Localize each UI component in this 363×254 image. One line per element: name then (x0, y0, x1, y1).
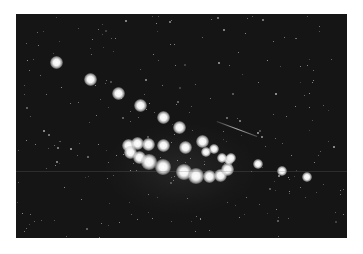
faint-star (140, 69, 141, 70)
faint-star (30, 116, 31, 117)
faint-star (189, 112, 190, 113)
faint-star (184, 64, 186, 66)
faint-star (289, 191, 290, 192)
faint-star (86, 228, 88, 230)
faint-star (170, 44, 171, 45)
faint-star (319, 31, 320, 32)
faint-star (288, 177, 289, 178)
faint-star (148, 212, 149, 213)
faint-star (171, 221, 172, 222)
faint-star (90, 48, 91, 49)
faint-star (174, 176, 175, 177)
faint-star (26, 228, 27, 229)
bright-star (134, 99, 147, 112)
faint-star (102, 24, 103, 25)
faint-star (275, 190, 276, 191)
faint-star (89, 122, 90, 123)
faint-star (192, 130, 193, 131)
faint-star (54, 220, 55, 221)
faint-star (154, 112, 155, 113)
faint-star (79, 143, 80, 144)
faint-star (54, 145, 55, 146)
bright-star (142, 138, 155, 151)
faint-star (257, 132, 259, 134)
faint-star (267, 60, 268, 61)
faint-star (35, 144, 36, 145)
faint-star (239, 217, 240, 218)
faint-star (335, 212, 336, 213)
faint-star (162, 85, 163, 86)
faint-star (113, 175, 114, 176)
faint-star (56, 161, 58, 163)
faint-star (294, 176, 295, 177)
faint-star (174, 44, 175, 45)
faint-star (130, 121, 131, 122)
faint-star (185, 162, 186, 163)
faint-star (177, 101, 179, 103)
faint-star (313, 70, 314, 71)
scan-artifact-line (16, 171, 347, 172)
faint-star (48, 148, 49, 149)
faint-star (157, 31, 158, 32)
faint-star (244, 214, 245, 215)
faint-star (318, 155, 319, 156)
faint-star (274, 181, 275, 182)
faint-star (217, 17, 219, 19)
faint-star (108, 107, 109, 108)
faint-star (202, 37, 203, 38)
faint-star (187, 198, 188, 199)
faint-star (176, 104, 177, 105)
faint-star (100, 99, 101, 100)
faint-star (59, 163, 60, 164)
faint-star (59, 41, 60, 42)
faint-star (333, 146, 335, 148)
faint-star (210, 98, 211, 99)
faint-star (98, 29, 99, 30)
faint-star (40, 75, 41, 76)
faint-star (146, 109, 147, 110)
faint-star (78, 102, 79, 103)
faint-star (300, 66, 301, 67)
faint-star (320, 151, 321, 152)
faint-star (46, 168, 47, 169)
faint-star (152, 16, 153, 17)
faint-star (307, 16, 308, 17)
faint-star (27, 60, 28, 61)
faint-star (286, 116, 287, 117)
faint-star (131, 214, 132, 215)
faint-star (191, 221, 192, 222)
faint-star (96, 115, 97, 116)
faint-star (77, 155, 78, 156)
faint-star (275, 93, 277, 95)
faint-star (237, 118, 238, 119)
faint-star (179, 87, 181, 89)
faint-star (211, 19, 212, 20)
faint-star (87, 156, 89, 158)
faint-star (227, 202, 228, 203)
faint-star (157, 197, 158, 198)
faint-star (200, 219, 201, 220)
faint-star (273, 41, 274, 42)
bright-star (157, 139, 170, 152)
faint-star (246, 197, 247, 198)
faint-star (288, 218, 289, 219)
faint-star (262, 167, 263, 168)
faint-star (340, 190, 341, 191)
faint-star (102, 34, 103, 35)
faint-star (55, 165, 56, 166)
faint-star (145, 79, 147, 81)
faint-star (18, 150, 19, 151)
faint-star (133, 163, 134, 164)
faint-star (57, 147, 59, 149)
faint-star (108, 225, 109, 226)
faint-star (109, 203, 110, 204)
faint-star (160, 157, 161, 158)
faint-star (309, 107, 310, 108)
faint-star (106, 150, 107, 151)
faint-star (125, 20, 127, 22)
faint-star (91, 54, 92, 55)
faint-star (276, 209, 277, 210)
faint-star (61, 87, 62, 88)
faint-star (289, 193, 290, 194)
faint-star (78, 28, 79, 29)
